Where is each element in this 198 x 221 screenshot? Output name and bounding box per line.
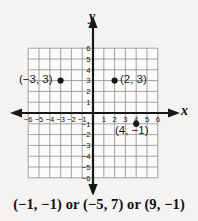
svg-text:1: 1 [102,115,106,124]
x-axis-arrow-right [168,108,180,117]
svg-text:5: 5 [86,55,90,64]
svg-text:2: 2 [86,87,90,96]
svg-text:5: 5 [145,115,149,124]
svg-text:−1: −1 [82,120,91,129]
plot-area: −6 −5 −4 −3 −2 −1 1 2 3 4 5 6 6 5 4 3 2 … [0,0,198,195]
svg-text:−6: −6 [24,115,33,124]
svg-text:3: 3 [123,115,127,124]
svg-text:−2: −2 [82,130,91,139]
svg-text:−3: −3 [82,141,91,150]
data-point-label-a: (−3, 3) [19,73,53,85]
svg-text:−2: −2 [67,115,76,124]
answer-caption: (−1, −1) or (−5, 7) or (9, −1) [0,196,198,213]
y-axis-arrow-down [88,184,97,195]
svg-text:6: 6 [156,115,160,124]
data-point-b [112,78,118,84]
data-point-label-c: (4, −1) [115,124,149,136]
data-point-label-b: (2, 3) [120,73,147,85]
svg-text:−5: −5 [82,163,91,172]
coordinate-grid-svg: −6 −5 −4 −3 −2 −1 1 2 3 4 5 6 6 5 4 3 2 … [0,0,198,195]
svg-text:−6: −6 [82,174,91,183]
y-axis-label: y [89,9,95,25]
svg-text:1: 1 [86,98,90,107]
svg-text:−4: −4 [45,115,54,124]
svg-text:4: 4 [86,66,90,75]
x-axis-arrow-left [10,108,22,117]
x-axis-label: x [181,103,188,119]
svg-text:−3: −3 [56,115,65,124]
svg-text:−5: −5 [35,115,44,124]
coordinate-plane-figure: −6 −5 −4 −3 −2 −1 1 2 3 4 5 6 6 5 4 3 2 … [0,0,198,221]
svg-text:3: 3 [86,76,90,85]
svg-text:2: 2 [112,115,116,124]
svg-text:6: 6 [86,44,90,53]
svg-text:−4: −4 [82,152,91,161]
data-point-a [58,78,64,84]
